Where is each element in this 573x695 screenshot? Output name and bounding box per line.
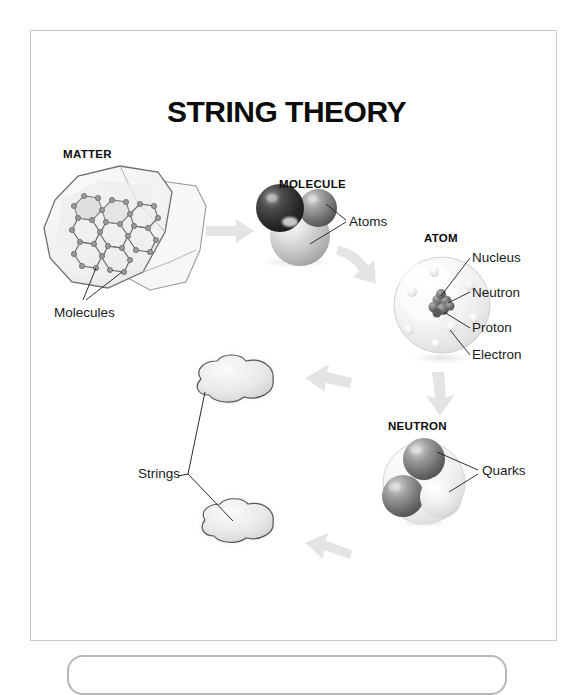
molecules-callout: Molecules [54,305,115,320]
nucleus-callout: Nucleus [472,250,521,265]
neutron-heading: NEUTRON [388,420,447,432]
atom-heading: ATOM [424,232,458,244]
atoms-callout: Atoms [349,214,387,229]
bottom-rounded-card [67,655,507,695]
quarks-callout: Quarks [482,463,526,478]
proton-callout: Proton [472,320,512,335]
neutron-callout: Neutron [472,285,520,300]
page-title: STRING THEORY [0,95,573,129]
matter-heading: MATTER [63,148,112,160]
strings-callout: Strings [138,466,180,481]
molecule-heading: MOLECULE [279,178,346,190]
electron-callout: Electron [472,347,522,362]
